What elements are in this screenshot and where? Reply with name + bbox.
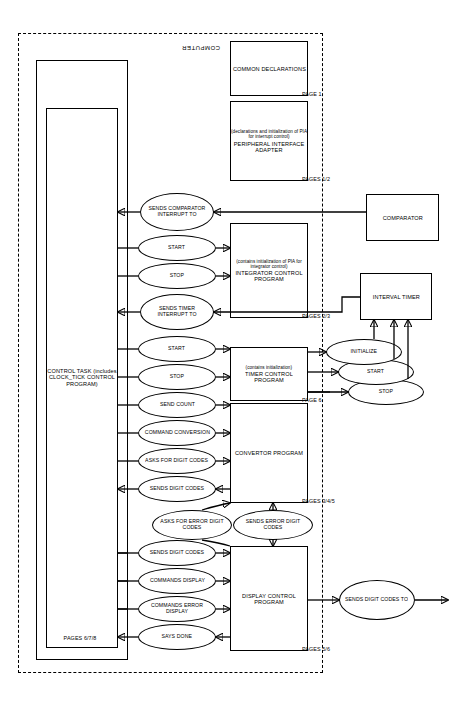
module-pages-convertor: PAGES 3/4/5 (302, 498, 335, 504)
msg-asks-for-error-digit-codes: ASKS FOR ERROR DIGIT CODES (152, 510, 232, 540)
control-task-label: CONTROL TASK (includes CLOCK_TICK CONTRO… (47, 369, 117, 388)
msg-itimer-initialize: INITIALIZE (326, 339, 402, 365)
module-sub: (contains initialization) (246, 365, 292, 370)
module-title: INTEGRATOR CONTROL PROGRAM (231, 270, 307, 283)
msg-integrator-stop: STOP (138, 263, 216, 289)
msg-label: STOP (170, 273, 184, 279)
rotated-figure-group: COMPUTER CONTROL PROGRAM CONTROL TASK (i… (0, 0, 470, 703)
msg-sends-timer-interrupt-to: SENDS TIMER INTERRUPT TO (140, 294, 214, 330)
module-display-control-program: DISPLAY CONTROL PROGRAM (230, 546, 308, 651)
msg-label: COMMAND CONVERSION (144, 430, 209, 436)
msg-send-count: SEND COUNT (138, 392, 216, 418)
block-comparator: COMPARATOR (366, 194, 439, 241)
module-pages-pia: PAGES 1/2 (302, 176, 330, 182)
msg-timer-start: START (138, 336, 216, 362)
msg-label: START (169, 245, 186, 251)
module-title: PERIPHERAL INTERFACE ADAPTER (231, 140, 307, 153)
diagram-canvas: COMPUTER CONTROL PROGRAM CONTROL TASK (i… (0, 0, 470, 703)
module-common-declarations: COMMON DECLARATIONS (230, 41, 308, 96)
module-title: CONVERTOR PROGRAM (235, 450, 303, 456)
module-sub: (declarations and initialization of PIA … (231, 129, 307, 139)
msg-label: ASKS FOR DIGIT CODES (146, 458, 209, 464)
msg-label: SENDS TIMER INTERRUPT TO (144, 306, 210, 318)
module-pages-common: PAGE 1 (302, 91, 322, 97)
msg-sends-digit-codes-display: SENDS DIGIT CODES (138, 540, 216, 566)
msg-label: START (169, 346, 186, 352)
msg-label: START (368, 369, 385, 375)
block-interval-timer: INTERVAL TIMER (360, 273, 432, 320)
msg-command-conversion: COMMAND CONVERSION (138, 420, 216, 446)
msg-label: STOP (170, 374, 184, 380)
msg-commands-error-display: COMMANDS ERROR DISPLAY (138, 596, 216, 622)
msg-integrator-start: START (138, 235, 216, 261)
module-peripheral-interface-adapter: PERIPHERAL INTERFACE ADAPTER (declaratio… (230, 101, 308, 181)
msg-sends-digit-codes-conv: SENDS DIGIT CODES (138, 476, 216, 502)
msg-label: STOP (379, 389, 393, 395)
control-task-inner-box: CONTROL TASK (includes CLOCK_TICK CONTRO… (46, 108, 118, 648)
msg-label: SAYS DONE (162, 634, 193, 640)
comparator-label: COMPARATOR (382, 214, 422, 220)
msg-label: SENDS ERROR DIGIT CODES (237, 519, 309, 531)
module-convertor-program: CONVERTOR PROGRAM (230, 403, 308, 503)
control-task-pages: PAGES 6/7/8 (60, 635, 100, 641)
msg-label: SENDS DIGIT CODES (150, 550, 204, 556)
msg-commands-display: COMMANDS DISPLAY (138, 568, 216, 594)
msg-label: SENDS DIGIT CODES (150, 486, 204, 492)
module-integrator-control-program: INTEGRATOR CONTROL PROGRAM (contains ini… (230, 223, 308, 318)
msg-label: SENDS COMPARATOR INTERRUPT TO (144, 206, 210, 218)
msg-timer-stop: STOP (138, 364, 216, 390)
module-pages-display: PAGES 5/6 (302, 646, 330, 652)
module-title: DISPLAY CONTROL PROGRAM (231, 592, 307, 605)
msg-label: ASKS FOR ERROR DIGIT CODES (156, 519, 228, 531)
msg-sends-digit-codes-to: SENDS DIGIT CODES TO (339, 580, 415, 620)
msg-label: INITIALIZE (351, 349, 377, 355)
msg-asks-for-digit-codes: ASKS FOR DIGIT CODES (138, 448, 216, 474)
msg-sends-comparator-interrupt-to: SENDS COMPARATOR INTERRUPT TO (140, 193, 214, 231)
module-timer-control-program: TIMER CONTROL PROGRAM (contains initiali… (230, 347, 308, 401)
module-pages-timer: PAGE 6 (302, 397, 322, 403)
msg-sends-error-digit-codes: SENDS ERROR DIGIT CODES (233, 510, 313, 540)
msg-label: COMMANDS ERROR DISPLAY (142, 603, 212, 615)
module-title: COMMON DECLARATIONS (232, 65, 305, 71)
computer-boundary-label: COMPUTER (182, 45, 220, 51)
msg-label: SENDS DIGIT CODES TO (346, 597, 409, 603)
interval-timer-label: INTERVAL TIMER (372, 293, 419, 299)
msg-label: SEND COUNT (159, 402, 194, 408)
module-title: TIMER CONTROL PROGRAM (231, 371, 307, 384)
module-pages-integrator: PAGES 2/3 (302, 313, 330, 319)
module-sub: (contains initialization of PIA for inte… (231, 259, 307, 269)
msg-says-done: SAYS DONE (138, 624, 216, 650)
msg-label: COMMANDS DISPLAY (149, 578, 204, 584)
